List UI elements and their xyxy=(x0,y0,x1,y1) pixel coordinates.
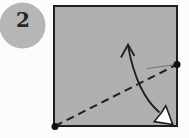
origami-step-diagram: 2 xyxy=(0,0,189,138)
vertex-dot-bottom-left xyxy=(52,123,59,130)
vertex-dot-right-edge xyxy=(174,61,181,68)
diagram-svg: 2 xyxy=(0,0,189,138)
paper-square xyxy=(54,6,177,126)
step-number: 2 xyxy=(16,8,30,32)
